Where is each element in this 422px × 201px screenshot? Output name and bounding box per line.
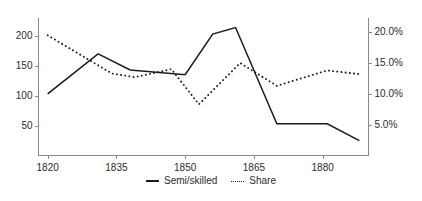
x-axis-tick-label: 1850	[155, 163, 215, 173]
legend-label: Semi/skilled	[164, 176, 217, 186]
series-line-share	[48, 35, 360, 104]
legend-label: Share	[249, 176, 276, 186]
x-axis-tick-label: 1880	[293, 163, 353, 173]
x-axis-tick-label: 1835	[86, 163, 146, 173]
y-axis-right-tick-label: 20.0%	[375, 27, 403, 37]
chart-container: 50100150200 5.0%10.0%15.0%20.0% 18201835…	[0, 0, 422, 201]
y-axis-left-tick-label: 50	[0, 121, 33, 131]
x-axis-tick-label: 1820	[18, 163, 78, 173]
dashed-line-icon	[231, 181, 244, 182]
y-axis-left-tick-label: 100	[0, 91, 33, 101]
y-axis-left-tick-label: 200	[0, 31, 33, 41]
legend-item-share[interactable]: Share	[231, 176, 276, 186]
legend-item-semi-skilled[interactable]: Semi/skilled	[146, 176, 217, 186]
solid-line-icon	[146, 180, 159, 182]
y-axis-right-tick-label: 15.0%	[375, 58, 403, 68]
y-axis-left-tick-label: 150	[0, 61, 33, 71]
chart-legend: Semi/skilledShare	[0, 176, 422, 186]
y-axis-right-tick-label: 5.0%	[375, 120, 398, 130]
series-line-semi-skilled	[48, 28, 360, 141]
x-axis-tick-label: 1865	[224, 163, 284, 173]
y-axis-right-tick-label: 10.0%	[375, 89, 403, 99]
